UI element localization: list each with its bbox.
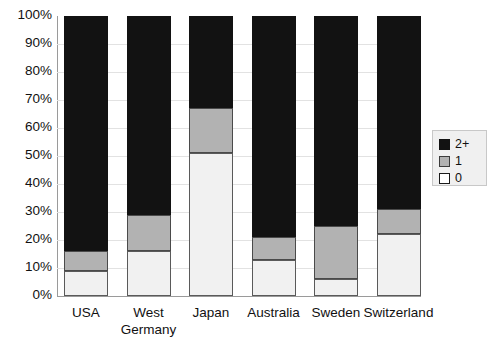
- gridline: [57, 184, 420, 185]
- bar-segment-2plus: [252, 16, 296, 237]
- bar-segment-1: [377, 209, 421, 234]
- bar-segment-2plus: [314, 16, 358, 226]
- bar-segment-2plus: [377, 16, 421, 209]
- black-square-icon: [439, 139, 450, 150]
- gridline: [57, 212, 420, 213]
- bar-group: [252, 16, 296, 296]
- legend-item: 0: [439, 170, 486, 186]
- gridline: [57, 268, 420, 269]
- gridline: [57, 72, 420, 73]
- x-axis-tick-labels: USAWestGermanyJapanAustraliaSwedenSwitze…: [57, 300, 420, 354]
- y-axis-tick-label: 0%: [0, 287, 52, 302]
- x-axis-tick-label-line: Switzerland: [364, 305, 434, 320]
- bar-segment-0: [127, 251, 171, 296]
- legend-item: 2+: [439, 136, 486, 152]
- plot-area: [57, 16, 420, 296]
- gridline: [57, 128, 420, 129]
- x-axis-line: [57, 296, 421, 297]
- y-axis-tick-label: 100%: [0, 7, 52, 22]
- bar-group: [189, 16, 233, 296]
- bar-segment-2plus: [189, 16, 233, 108]
- legend-item-label: 2+: [455, 137, 469, 151]
- x-axis-tick-label-line: West: [133, 305, 164, 320]
- x-axis-tick-label-line: Japan: [193, 305, 230, 320]
- y-axis-tick-label: 90%: [0, 35, 52, 50]
- bar-group: [127, 16, 171, 296]
- bar-segment-0: [314, 279, 358, 296]
- bar-segment-1: [252, 237, 296, 259]
- y-axis-tick-labels: 0%10%20%30%40%50%60%70%80%90%100%: [0, 0, 52, 354]
- bar-segment-0: [64, 271, 108, 296]
- bar-segment-0: [252, 260, 296, 296]
- y-axis-tick-label: 60%: [0, 119, 52, 134]
- bar-segment-2plus: [127, 16, 171, 215]
- y-axis-tick-label: 50%: [0, 147, 52, 162]
- bar-segment-1: [189, 108, 233, 153]
- gridline: [57, 240, 420, 241]
- bar-group: [377, 16, 421, 296]
- bar-segment-0: [189, 153, 233, 296]
- gridline: [57, 44, 420, 45]
- bar-segment-1: [64, 251, 108, 271]
- y-axis-tick-label: 20%: [0, 231, 52, 246]
- y-axis-tick-label: 40%: [0, 175, 52, 190]
- bar-group: [64, 16, 108, 296]
- stacked-bar-chart: 0%10%20%30%40%50%60%70%80%90%100% USAWes…: [0, 0, 493, 354]
- y-axis-tick-label: 80%: [0, 63, 52, 78]
- gray-square-icon: [439, 156, 450, 167]
- x-axis-tick-label-line: Germany: [104, 321, 194, 338]
- legend-item: 1: [439, 153, 486, 169]
- chart-legend: 2+10: [432, 130, 487, 186]
- gridline: [57, 100, 420, 101]
- gridline: [57, 156, 420, 157]
- y-axis-tick-label: 70%: [0, 91, 52, 106]
- bar-group: [314, 16, 358, 296]
- bar-segment-1: [314, 226, 358, 279]
- legend-item-label: 1: [455, 154, 462, 168]
- legend-item-label: 0: [455, 171, 462, 185]
- bar-segment-2plus: [64, 16, 108, 251]
- x-axis-tick-label-line: USA: [72, 305, 100, 320]
- x-axis-tick-label: Switzerland: [354, 304, 444, 321]
- y-axis-tick-label: 30%: [0, 203, 52, 218]
- white-square-icon: [439, 173, 450, 184]
- bar-segment-1: [127, 215, 171, 251]
- bar-segment-0: [377, 234, 421, 296]
- y-axis-tick-label: 10%: [0, 259, 52, 274]
